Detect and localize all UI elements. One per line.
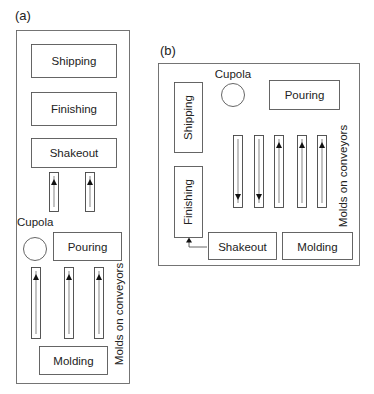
layout-a: (a) Shipping Finishing Shakeout Cupola P… [15,8,130,384]
layout-b-label: (b) [160,43,176,58]
department-label: Molding [297,241,337,253]
department-label: Shakeout [50,147,99,159]
department-label: Shipping [52,55,97,67]
department-shipping: Shipping [175,83,203,153]
department-label: Finishing [182,179,194,225]
conveyor-note: Molds on conveyors [113,263,125,366]
department-finishing: Finishing [32,93,117,126]
foundry-layout-figure: (a) Shipping Finishing Shakeout Cupola P… [0,0,374,394]
conveyor-up [298,136,307,208]
conveyor-up [50,173,59,212]
cupola-label: Cupola [215,68,252,80]
cupola-icon [24,238,47,261]
department-molding: Molding [40,347,108,375]
conveyor-up [65,268,74,339]
department-shipping: Shipping [32,45,117,78]
department-finishing: Finishing [175,167,203,238]
conveyor-up [95,268,104,339]
department-label: Shakeout [218,241,267,253]
department-molding: Molding [283,233,353,260]
department-label: Finishing [51,103,97,115]
conveyor-up [32,268,41,339]
layout-b: (b) Cupola Shipping Pouring Molds on con… [159,43,360,266]
conveyor-up [318,136,327,208]
department-label: Molding [53,355,93,367]
department-shakeout: Shakeout [32,139,117,168]
department-label: Pouring [68,241,108,253]
department-pouring: Pouring [270,81,340,110]
cupola-label: Cupola [17,216,54,228]
conveyor-up [275,136,284,208]
department-label: Pouring [285,89,325,101]
cupola-icon [222,84,245,107]
conveyor-up [86,173,95,212]
conveyor-note: Molds on conveyors [337,125,349,228]
department-label: Shipping [182,95,194,140]
conveyor-down [234,136,243,208]
department-shakeout: Shakeout [209,233,277,260]
department-pouring: Pouring [54,233,122,261]
layout-a-label: (a) [15,8,31,23]
conveyor-down [255,136,264,208]
